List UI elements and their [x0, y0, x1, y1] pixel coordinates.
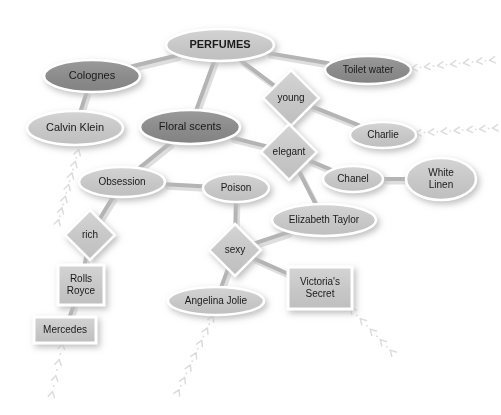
node-calvin_klein[interactable]: Calvin Klein: [27, 111, 123, 145]
node-rolls_royce[interactable]: RollsRoyce: [58, 265, 104, 305]
node-elegant[interactable]: elegant: [261, 124, 317, 180]
node-obsession[interactable]: Obsession: [79, 167, 165, 197]
node-victorias_secret[interactable]: Victoria'sSecret: [288, 267, 352, 309]
node-layer: PERFUMESColognesToilet waterCalvin Klein…: [27, 29, 476, 343]
edge-perfumes-to-floral_scents: [197, 62, 216, 112]
toilet_water-label: Toilet water: [343, 64, 394, 75]
concept-map-graph: PERFUMESColognesToilet waterCalvin Klein…: [0, 0, 501, 415]
node-young[interactable]: young: [263, 70, 319, 126]
white_linen-label: Linen: [429, 179, 453, 190]
victorias_secret-label: Victoria's: [300, 276, 340, 287]
edge-obsession-to-rich: [100, 198, 115, 222]
node-toilet_water[interactable]: Toilet water: [325, 56, 411, 84]
poison-label: Poison: [221, 182, 252, 193]
floral_scents-label: Floral scents: [159, 120, 222, 132]
concept-map-canvas: PERFUMESColognesToilet waterCalvin Klein…: [0, 0, 501, 415]
edge-obsession-to-poison: [166, 184, 205, 189]
node-sexy[interactable]: sexy: [209, 224, 261, 276]
node-poison[interactable]: Poison: [203, 174, 269, 202]
rolls_royce-label: Royce: [67, 285, 96, 296]
victorias_secret-label: Secret: [306, 288, 335, 299]
edge-floral_scents-to-obsession: [140, 143, 172, 170]
perfumes-label: PERFUMES: [189, 38, 250, 50]
charlie-label: Charlie: [367, 129, 399, 140]
node-angelina_jolie[interactable]: Angelina Jolie: [168, 287, 264, 315]
trail-charlie: [415, 125, 498, 137]
node-perfumes[interactable]: PERFUMES: [166, 29, 274, 61]
node-white_linen[interactable]: WhiteLinen: [406, 158, 476, 200]
elizabeth_taylor-label: Elizabeth Taylor: [289, 214, 360, 225]
calvin_klein-label: Calvin Klein: [46, 121, 104, 133]
edge-sexy-to-victorias_secret: [254, 258, 289, 276]
edge-poison-to-sexy: [235, 203, 237, 226]
node-chanel[interactable]: Chanel: [323, 166, 383, 192]
colognes-label: Colognes: [69, 69, 116, 81]
edge-perfumes-to-colognes: [132, 55, 179, 69]
obsession-label: Obsession: [98, 176, 145, 187]
edge-young-to-charlie: [312, 106, 361, 128]
chanel-label: Chanel: [337, 173, 369, 184]
edge-chanel-to-white_linen: [384, 179, 407, 182]
trail-angelina-jolie: [174, 314, 216, 396]
trail-victorias-secret: [348, 306, 396, 356]
elegant-label: elegant: [273, 146, 306, 157]
edge-elizabeth_taylor-to-sexy: [255, 232, 289, 246]
edge-perfumes-to-young: [241, 61, 276, 89]
trail-calvin-klein: [54, 149, 82, 226]
node-charlie[interactable]: Charlie: [350, 122, 416, 148]
white_linen-label: White: [428, 167, 454, 178]
sexy-label: sexy: [225, 244, 246, 255]
angelina_jolie-label: Angelina Jolie: [185, 295, 248, 306]
trail-toilet-water: [411, 57, 495, 72]
edge-floral_scents-to-elegant: [231, 137, 267, 149]
rolls_royce-label: Rolls: [70, 273, 92, 284]
node-colognes[interactable]: Colognes: [44, 60, 140, 92]
mercedes-label: Mercedes: [43, 324, 87, 335]
edge-perfumes-to-toilet_water: [268, 53, 330, 66]
node-elizabeth_taylor[interactable]: Elizabeth Taylor: [272, 204, 376, 236]
trail-mercedes: [48, 343, 65, 398]
node-floral_scents[interactable]: Floral scents: [140, 110, 240, 144]
rich-label: rich: [82, 229, 98, 240]
node-rich[interactable]: rich: [65, 210, 115, 260]
node-mercedes[interactable]: Mercedes: [34, 317, 96, 343]
edge-elegant-to-elizabeth_taylor: [299, 171, 318, 206]
young-label: young: [277, 92, 304, 103]
